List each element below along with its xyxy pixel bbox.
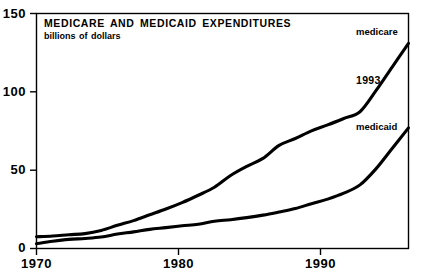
chart-figure: 150 100 50 0 1970 1980 1990 MEDICARE AND… [0, 0, 421, 277]
chart-subtitle: billions of dollars [44, 31, 121, 41]
plot-area-frame [37, 14, 409, 249]
x-axis-label-1990: 1990 [305, 256, 336, 271]
x-axis-label-1970: 1970 [21, 256, 52, 271]
y-axis-label-100: 100 [0, 84, 26, 99]
y-axis-label-150: 150 [0, 6, 26, 21]
x-axis-ticks [37, 249, 321, 256]
series-label-medicaid: medicaid [356, 121, 397, 132]
end-year-annotation: 1993 [356, 74, 381, 86]
chart-canvas [0, 0, 421, 277]
series-label-medicare: medicare [356, 26, 398, 37]
x-axis-label-1980: 1980 [163, 256, 194, 271]
y-axis-label-0: 0 [0, 240, 26, 255]
y-axis-ticks [30, 14, 37, 249]
y-axis-label-50: 50 [0, 162, 26, 177]
chart-title: MEDICARE AND MEDICAID EXPENDITURES [44, 17, 291, 29]
